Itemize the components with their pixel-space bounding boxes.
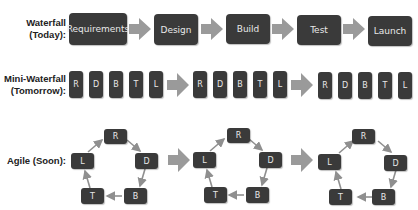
- mini-waterfall-label: Mini-Waterfall (Tomorrow):: [4, 73, 66, 97]
- cycle-node-r: R: [227, 128, 250, 143]
- cycle-node-b: B: [124, 188, 147, 204]
- cycle-node-d: D: [135, 153, 158, 169]
- mini-step: B: [109, 71, 123, 98]
- mini-step: L: [398, 72, 412, 99]
- label-line: (Tomorrow):: [4, 85, 66, 97]
- mini-step: B: [233, 71, 247, 98]
- cycle-node-t: T: [81, 188, 104, 204]
- mini-step: D: [89, 71, 103, 98]
- step-build: Build: [226, 14, 270, 44]
- cycle-node-b: B: [372, 189, 395, 205]
- mini-step: R: [69, 71, 83, 98]
- mini-step: B: [358, 72, 372, 99]
- mini-step: R: [193, 71, 207, 98]
- mini-step: D: [338, 72, 352, 99]
- label-line: Agile (Soon):: [7, 155, 66, 167]
- mini-step: D: [213, 71, 227, 98]
- cycle-node-l: L: [71, 153, 94, 169]
- cycle-node-l: L: [193, 152, 216, 168]
- cycle-node-r: R: [104, 129, 127, 144]
- block-arrow-icon: [167, 73, 189, 97]
- cycle-node-t: T: [204, 187, 227, 203]
- agile-arrows: [168, 148, 313, 172]
- mini-step: T: [129, 71, 143, 98]
- cycle-node-r: R: [352, 129, 375, 144]
- block-arrow-icon: [129, 18, 151, 40]
- mini-step: L: [273, 71, 287, 98]
- label-line: Mini-Waterfall: [4, 73, 66, 85]
- block-arrow-icon: [168, 148, 190, 172]
- step-design: Design: [154, 14, 198, 45]
- agile-label: Agile (Soon):: [7, 155, 66, 167]
- cycle-node-t: T: [329, 189, 352, 205]
- block-arrow-icon: [291, 73, 313, 97]
- mini-step: T: [378, 72, 392, 99]
- label-line: Waterfall: [26, 17, 66, 29]
- mini-step: R: [318, 72, 332, 99]
- block-arrow-icon: [201, 18, 223, 40]
- cycle-node-d: D: [384, 155, 407, 171]
- cycle-node-d: D: [259, 152, 282, 168]
- step-test: Test: [297, 15, 341, 45]
- mini-step: L: [149, 71, 163, 98]
- cycle-node-l: L: [318, 154, 341, 170]
- waterfall-label: Waterfall (Today):: [26, 17, 66, 41]
- step-launch: Launch: [368, 16, 412, 46]
- block-arrow-icon: [272, 18, 294, 40]
- step-requirements: Requirements: [69, 13, 127, 45]
- cycle-node-b: B: [246, 187, 269, 203]
- block-arrow-icon: [343, 18, 365, 40]
- block-arrow-icon: [291, 148, 313, 172]
- mini-step: T: [253, 71, 267, 98]
- label-line: (Today):: [26, 29, 66, 41]
